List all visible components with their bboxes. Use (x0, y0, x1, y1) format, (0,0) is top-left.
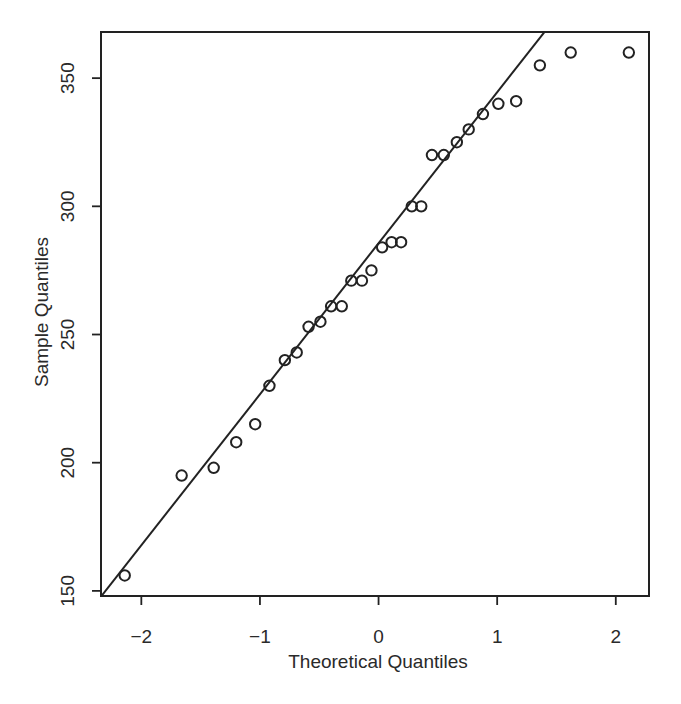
x-tick-label: −1 (249, 626, 271, 647)
y-tick-label: 150 (57, 575, 78, 607)
data-point (566, 47, 576, 57)
y-tick-label: 300 (57, 190, 78, 222)
x-tick-label: 2 (610, 626, 621, 647)
data-point (250, 419, 260, 429)
data-point (357, 275, 367, 285)
data-point (231, 437, 241, 447)
data-point (208, 463, 218, 473)
plot-frame (101, 32, 649, 596)
data-point (511, 96, 521, 106)
qq-reference-line (101, 0, 649, 597)
data-point (493, 99, 503, 109)
plot-area (101, 0, 649, 597)
y-tick-label: 250 (57, 319, 78, 351)
y-axis-label: Sample Quantiles (31, 237, 52, 387)
data-point (120, 570, 130, 580)
data-point (337, 301, 347, 311)
y-axis: 150200250300350 (57, 62, 101, 606)
y-tick-label: 200 (57, 447, 78, 479)
data-point (366, 265, 376, 275)
x-tick-label: 1 (492, 626, 503, 647)
data-point (176, 470, 186, 480)
data-point (535, 60, 545, 70)
x-axis: −2−1012 (130, 596, 621, 647)
qq-plot: −2−1012 150200250300350 Theoretical Quan… (0, 0, 681, 704)
x-tick-label: −2 (130, 626, 152, 647)
y-tick-label: 350 (57, 62, 78, 94)
x-tick-label: 0 (373, 626, 384, 647)
data-point (427, 150, 437, 160)
x-axis-label: Theoretical Quantiles (288, 651, 468, 672)
data-point (624, 47, 634, 57)
